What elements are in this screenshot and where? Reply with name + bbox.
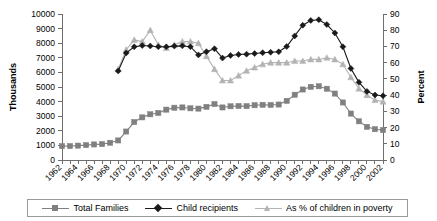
data-point-marker bbox=[268, 102, 273, 107]
x-axis-tick-label: 1988 bbox=[252, 162, 273, 183]
data-point-marker bbox=[268, 49, 274, 55]
y-axis-left-tick-label: 1000 bbox=[36, 140, 55, 150]
data-point-marker bbox=[276, 49, 282, 55]
y-axis-left-title: Thousands bbox=[8, 63, 18, 111]
data-point-marker bbox=[276, 102, 281, 107]
data-point-marker bbox=[308, 17, 314, 23]
legend-marker-triangle-icon bbox=[255, 203, 282, 213]
y-axis-right-tick-label: 60 bbox=[390, 58, 400, 68]
data-point-marker bbox=[324, 55, 330, 61]
data-point-marker bbox=[172, 105, 177, 110]
data-point-marker bbox=[235, 73, 241, 79]
data-point-marker bbox=[348, 111, 353, 116]
y-axis-left-tick-label: 4000 bbox=[36, 97, 55, 107]
y-axis-right-tick-label: 0 bbox=[390, 155, 395, 165]
series-child-recipients bbox=[115, 17, 386, 99]
data-point-marker bbox=[340, 61, 346, 67]
y-axis-right-tick-label: 10 bbox=[390, 139, 400, 149]
x-axis-tick-label: 1964 bbox=[59, 162, 80, 183]
y-axis-left-tick-label: 2000 bbox=[36, 126, 55, 136]
chart-figure: 0100020003000400050006000700080009000100… bbox=[0, 0, 437, 221]
data-point-marker bbox=[59, 144, 64, 149]
data-point-marker bbox=[332, 91, 337, 96]
y-axis-right-tick-label: 20 bbox=[390, 123, 400, 133]
data-point-marker bbox=[92, 142, 97, 147]
data-point-marker bbox=[348, 74, 354, 80]
y-axis-right-tick-label: 90 bbox=[390, 9, 400, 19]
data-point-marker bbox=[372, 127, 377, 132]
y-axis-right-tick-label: 80 bbox=[390, 25, 400, 35]
x-axis-tick-label: 1968 bbox=[91, 162, 112, 183]
y-axis-right-title: Percent bbox=[416, 70, 426, 103]
x-axis-tick-label: 1976 bbox=[155, 162, 176, 183]
x-axis-tick-label: 1980 bbox=[187, 162, 208, 183]
data-point-marker bbox=[228, 104, 233, 109]
data-point-marker bbox=[155, 44, 161, 50]
data-point-marker bbox=[348, 65, 354, 71]
data-point-marker bbox=[140, 115, 145, 120]
data-point-marker bbox=[228, 52, 234, 58]
x-axis-tick-label: 1974 bbox=[139, 162, 160, 183]
data-point-marker bbox=[204, 104, 209, 109]
data-point-marker bbox=[211, 66, 217, 72]
data-point-marker bbox=[364, 124, 369, 129]
y-axis-left-tick-label: 9000 bbox=[36, 24, 55, 34]
data-point-marker bbox=[156, 110, 161, 115]
data-point-marker bbox=[300, 87, 305, 92]
data-point-marker bbox=[356, 119, 361, 124]
data-point-marker bbox=[212, 101, 217, 106]
data-point-marker bbox=[324, 86, 329, 91]
x-axis-tick-label: 1996 bbox=[316, 162, 337, 183]
data-point-marker bbox=[100, 141, 105, 146]
legend-marker-square-icon bbox=[42, 203, 69, 213]
data-point-marker bbox=[308, 84, 313, 89]
data-point-marker bbox=[243, 68, 249, 74]
series-as-of-children-in-poverty bbox=[115, 27, 386, 104]
legend-item-label: As % of children in poverty bbox=[286, 203, 393, 213]
x-axis-tick-label: 2002 bbox=[364, 162, 385, 183]
data-point-marker bbox=[196, 106, 201, 111]
data-point-marker bbox=[180, 105, 185, 110]
data-point-marker bbox=[147, 27, 153, 33]
y-axis-left-tick-label: 7000 bbox=[36, 53, 55, 63]
y-axis-left-tick-label: 8000 bbox=[36, 38, 55, 48]
legend-item[interactable]: As % of children in poverty bbox=[255, 203, 393, 213]
series-total-families bbox=[59, 84, 385, 149]
data-point-marker bbox=[83, 143, 88, 148]
data-point-marker bbox=[115, 68, 121, 74]
x-axis-tick-label: 1978 bbox=[171, 162, 192, 183]
x-axis-tick-label: 1982 bbox=[203, 162, 224, 183]
y-axis-left-tick-label: 6000 bbox=[36, 67, 55, 77]
data-point-marker bbox=[124, 129, 129, 134]
legend-item[interactable]: Total Families bbox=[42, 203, 128, 213]
data-point-marker bbox=[132, 119, 137, 124]
data-point-marker bbox=[292, 92, 297, 97]
x-axis-tick-label: 1992 bbox=[284, 162, 305, 183]
data-point-marker bbox=[147, 43, 153, 49]
x-axis-tick-label: 1984 bbox=[220, 162, 241, 183]
data-point-marker bbox=[380, 93, 386, 99]
data-point-marker bbox=[244, 51, 250, 57]
legend-item[interactable]: Child recipients bbox=[145, 203, 238, 213]
x-axis-tick-label: 1972 bbox=[123, 162, 144, 183]
chart-legend: Total FamiliesChild recipientsAs % of ch… bbox=[27, 199, 408, 217]
x-axis-tick-label: 1994 bbox=[300, 162, 321, 183]
y-axis-right-tick-label: 40 bbox=[390, 90, 400, 100]
data-point-marker bbox=[236, 103, 241, 108]
x-axis-tick-label: 1962 bbox=[43, 162, 64, 183]
data-point-marker bbox=[252, 64, 258, 70]
data-point-marker bbox=[340, 100, 345, 105]
y-axis-right-tick-label: 70 bbox=[390, 41, 400, 51]
data-point-marker bbox=[316, 17, 322, 23]
x-axis-tick-label: 1966 bbox=[75, 162, 96, 183]
data-point-marker bbox=[252, 103, 257, 108]
y-axis-left-tick-label: 10000 bbox=[31, 9, 55, 19]
data-point-marker bbox=[67, 143, 72, 148]
x-axis-tick-label: 1990 bbox=[268, 162, 289, 183]
x-axis-tick-label: 1970 bbox=[107, 162, 128, 183]
series-line bbox=[118, 20, 383, 96]
data-point-marker bbox=[116, 138, 121, 143]
data-point-marker bbox=[284, 98, 289, 103]
data-point-marker bbox=[164, 107, 169, 112]
data-point-marker bbox=[260, 102, 265, 107]
